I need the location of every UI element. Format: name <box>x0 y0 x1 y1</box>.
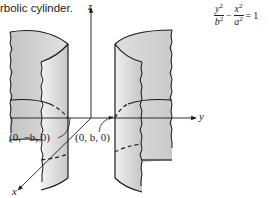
y-axis-label: y <box>199 110 204 122</box>
left-vertex-coordinates: (0, −b, 0) <box>9 131 50 143</box>
z-axis-label: z <box>88 0 92 12</box>
left-sheet <box>10 31 68 191</box>
right-sheet <box>115 30 172 192</box>
right-vertex-label: (0, b, 0) <box>75 131 110 143</box>
x-axis-label: x <box>12 185 17 197</box>
right-vertex-coordinates: (0, b, 0) <box>75 131 110 143</box>
leader-right-vertex <box>99 117 113 132</box>
left-vertex-label: (0, −b, 0) <box>9 131 50 143</box>
hyperbolic-cylinder-diagram <box>0 0 270 198</box>
